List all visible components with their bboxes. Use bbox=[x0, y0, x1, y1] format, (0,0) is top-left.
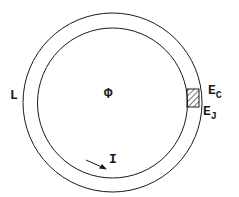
flux-label: Φ bbox=[104, 86, 113, 102]
charging-energy-label: EC bbox=[208, 83, 222, 101]
current-arrow-icon bbox=[86, 160, 107, 170]
josephson-energy-label: EJ bbox=[203, 104, 217, 122]
rf-squid-diagram: L Φ I EC EJ bbox=[0, 0, 239, 197]
inductance-label: L bbox=[10, 88, 18, 103]
josephson-junction bbox=[187, 89, 199, 107]
current-label: I bbox=[109, 152, 117, 167]
